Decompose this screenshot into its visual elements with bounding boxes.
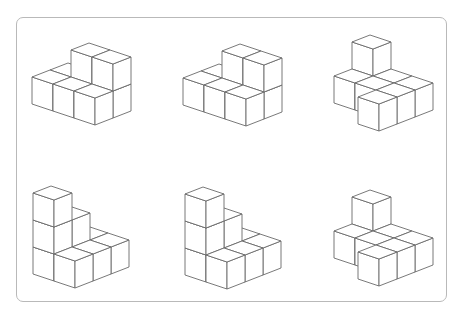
cube [54, 247, 93, 288]
cube [358, 90, 397, 131]
cube [92, 50, 131, 91]
cube [225, 85, 264, 126]
cube [74, 84, 113, 125]
figure-2 [183, 44, 282, 126]
figure-6 [334, 190, 433, 286]
cube [352, 190, 391, 231]
cube-figures-canvas [0, 0, 463, 318]
figure-1 [32, 43, 131, 125]
cube [352, 35, 391, 76]
cube [243, 51, 282, 92]
cube [206, 248, 245, 289]
figure-4 [33, 186, 129, 288]
cube [33, 186, 72, 227]
cube [185, 187, 224, 228]
figure-5 [185, 187, 281, 289]
cube [358, 245, 397, 286]
figure-3 [334, 35, 433, 131]
